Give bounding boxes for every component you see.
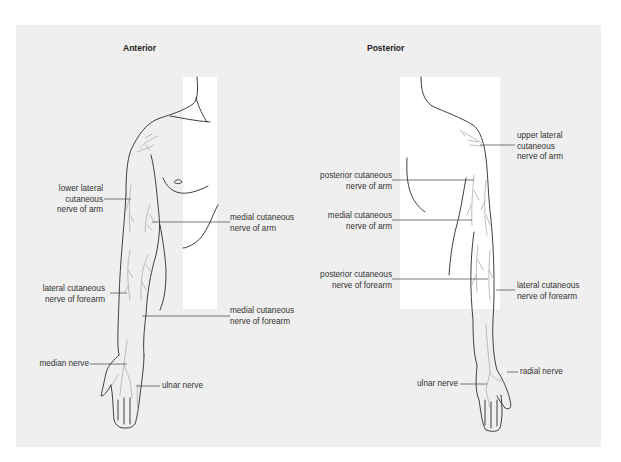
label-posterior-cutaneous-nerve-of-arm: posterior cutaneous nerve of arm: [320, 171, 392, 192]
anterior-title: Anterior: [123, 43, 156, 53]
anterior-arm-outline: [101, 77, 218, 428]
posterior-nerve-branches: [460, 130, 504, 408]
label-lateral-cutaneous-nerve-of-forearm-anterior: lateral cutaneous nerve of forearm: [43, 284, 105, 305]
label-medial-cutaneous-nerve-of-forearm: medial cutaneous nerve of forearm: [230, 306, 294, 327]
leader-lines: [90, 145, 518, 386]
arm-nerve-illustration: [0, 0, 621, 462]
label-upper-lateral-cutaneous-nerve-of-arm: upper lateral cutaneous nerve of arm: [517, 131, 563, 163]
label-ulnar-nerve-anterior: ulnar nerve: [162, 381, 203, 392]
label-medial-cutaneous-nerve-of-arm-posterior: medial cutaneous nerve of arm: [328, 211, 392, 232]
label-lower-lateral-cutaneous-nerve-of-arm: lower lateral cutaneous nerve of arm: [57, 184, 103, 216]
label-ulnar-nerve-posterior: ulnar nerve: [417, 379, 458, 390]
label-posterior-cutaneous-nerve-of-forearm: posterior cutaneous nerve of forearm: [320, 270, 392, 291]
label-radial-nerve: radial nerve: [520, 367, 563, 378]
label-lateral-cutaneous-nerve-of-forearm-posterior: lateral cutaneous nerve of forearm: [517, 281, 579, 302]
posterior-title: Posterior: [367, 43, 404, 53]
label-median-nerve: median nerve: [39, 359, 89, 370]
label-medial-cutaneous-nerve-of-arm-anterior: medial cutaneous nerve of arm: [230, 213, 294, 234]
